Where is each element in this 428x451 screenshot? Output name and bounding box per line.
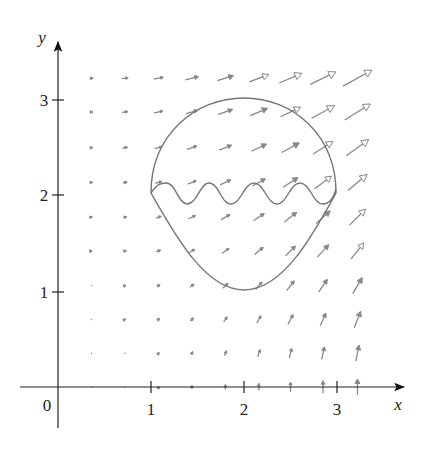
arrowhead-icon bbox=[290, 348, 293, 351]
x-tick-label-1: 1 bbox=[147, 400, 156, 419]
closed-curve bbox=[151, 98, 336, 290]
arrowhead-icon bbox=[323, 279, 327, 284]
arrowhead-icon bbox=[290, 315, 293, 318]
arrowhead-icon bbox=[126, 77, 129, 80]
field-arrow bbox=[91, 353, 92, 354]
wavy-curve bbox=[151, 183, 336, 204]
arrowhead-icon bbox=[357, 278, 362, 284]
upper-arc bbox=[151, 98, 336, 193]
origin-label: 0 bbox=[43, 396, 52, 415]
arrowhead-icon bbox=[289, 382, 292, 385]
arrowhead-icon bbox=[90, 146, 93, 149]
arrowhead-icon bbox=[227, 145, 231, 149]
arrowhead-icon bbox=[294, 73, 302, 80]
arrowhead-icon bbox=[258, 350, 261, 353]
arrowhead-icon bbox=[124, 250, 127, 253]
arrowhead-icon bbox=[124, 181, 127, 184]
arrowhead-icon bbox=[227, 180, 231, 183]
arrowhead-icon bbox=[322, 313, 326, 317]
vector-field-plot: 1 2 3 1 2 3 0 x y bbox=[0, 0, 428, 451]
y-axis-label: y bbox=[36, 28, 46, 47]
arrowhead-icon bbox=[123, 285, 126, 288]
y-tick-label-3: 3 bbox=[40, 91, 49, 110]
arrowhead-icon bbox=[157, 319, 160, 322]
x-tick-label-2: 2 bbox=[240, 400, 249, 419]
field-arrow bbox=[124, 353, 125, 354]
arrowhead-icon bbox=[90, 216, 93, 219]
arrowhead-icon bbox=[193, 215, 196, 218]
axis-labels: 1 2 3 1 2 3 0 x y bbox=[36, 28, 402, 419]
arrowhead-icon bbox=[123, 319, 126, 321]
arrowhead-icon bbox=[325, 176, 332, 182]
arrowhead-icon bbox=[321, 381, 325, 385]
arrowhead-icon bbox=[160, 76, 163, 79]
arrowhead-icon bbox=[262, 108, 268, 113]
arrowhead-icon bbox=[361, 140, 369, 147]
arrowhead-icon bbox=[158, 250, 161, 253]
arrowhead-icon bbox=[293, 143, 299, 148]
arrowhead-icon bbox=[194, 145, 197, 148]
x-axis-label: x bbox=[393, 395, 402, 414]
x-tick-label-3: 3 bbox=[333, 400, 342, 419]
arrowhead-icon bbox=[90, 250, 93, 253]
arrowhead-icon bbox=[328, 72, 336, 79]
vector-field-arrows bbox=[90, 70, 372, 395]
arrowhead-icon bbox=[157, 352, 159, 355]
arrowhead-icon bbox=[261, 144, 266, 149]
arrowhead-icon bbox=[158, 216, 161, 219]
arrowhead-icon bbox=[292, 178, 298, 183]
y-tick-label-2: 2 bbox=[40, 186, 49, 205]
arrowhead-icon bbox=[91, 77, 94, 80]
axes bbox=[20, 42, 404, 428]
arrowhead-icon bbox=[258, 383, 261, 386]
arrowhead-icon bbox=[262, 74, 269, 80]
arrowhead-icon bbox=[322, 347, 326, 351]
lower-arc bbox=[151, 193, 336, 290]
arrowhead-icon bbox=[125, 111, 128, 114]
y-tick-label-1: 1 bbox=[40, 283, 49, 302]
field-arrow bbox=[91, 319, 92, 320]
arrowhead-icon bbox=[228, 75, 233, 80]
arrowhead-icon bbox=[261, 179, 266, 183]
arrowhead-icon bbox=[190, 352, 193, 355]
arrowhead-icon bbox=[125, 146, 128, 149]
arrowhead-icon bbox=[194, 76, 198, 80]
arrowhead-icon bbox=[90, 111, 93, 114]
arrowhead-icon bbox=[160, 110, 163, 113]
arrowhead-icon bbox=[90, 181, 93, 184]
arrowhead-icon bbox=[124, 216, 127, 219]
arrowhead-icon bbox=[356, 311, 361, 316]
arrowhead-icon bbox=[355, 379, 360, 383]
arrowhead-icon bbox=[224, 351, 227, 354]
arrowhead-icon bbox=[356, 345, 361, 350]
field-arrow bbox=[91, 285, 92, 286]
arrowhead-icon bbox=[228, 109, 233, 113]
arrowhead-icon bbox=[227, 215, 230, 218]
arrowhead-icon bbox=[193, 180, 196, 183]
